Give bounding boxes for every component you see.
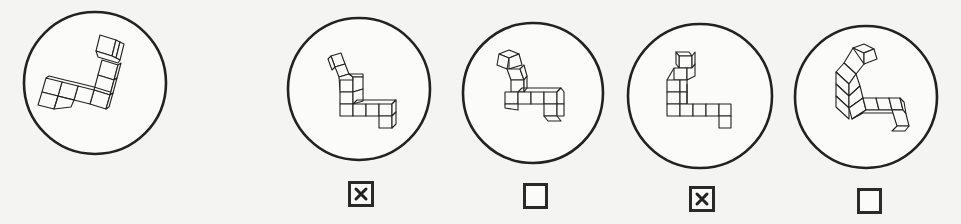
option-3-figure <box>628 24 772 168</box>
figure-canvas <box>0 0 961 224</box>
mental-rotation-figure <box>0 0 961 224</box>
option-1-figure <box>288 18 430 160</box>
option-4-checkbox[interactable] <box>857 188 882 214</box>
option-4-figure <box>795 26 937 168</box>
reference-figure <box>24 12 166 154</box>
x-mark-icon <box>692 189 712 209</box>
option-2-checkbox[interactable] <box>523 183 548 209</box>
option-1-checkbox[interactable] <box>348 181 374 207</box>
option-3-circle <box>628 24 772 168</box>
option-3-checkbox[interactable] <box>689 186 715 212</box>
x-mark-icon <box>351 184 371 204</box>
option-2-figure <box>463 23 603 163</box>
